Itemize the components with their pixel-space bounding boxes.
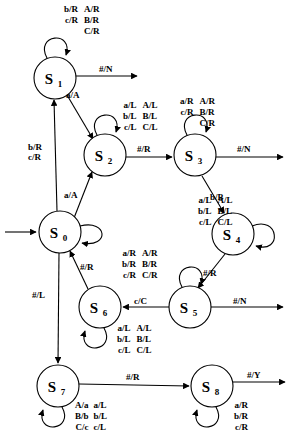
state-label-s4: S [223,227,231,243]
self-loop-label-s3: a/R c/R A/R B/R C/R [180,96,215,129]
edge-label-s1-accept: #/N [99,64,113,74]
self-loop-s5 [179,267,202,287]
state-label-s7: S [48,379,56,395]
state-node-s8[interactable]: S 8 [191,365,233,407]
edge-label-s0-s1: b/R c/R [28,142,42,162]
self-loop-label-s4-col1: a/L b/L c/L [198,195,212,228]
self-loop-s0 [80,225,102,244]
self-loop-label-s2-col1: a/L b/L c/L [123,100,137,133]
self-loop-label-s2: a/L b/L c/L A/L B/L C/L [123,100,158,133]
state-label-s8: S [202,379,210,395]
transition-s1-s2 [67,95,93,139]
state-node-s6[interactable]: S 6 [79,286,121,328]
edge-label-s6-s0: #/R [80,262,94,272]
edge-label-s5-s6: c/C [134,296,147,306]
self-loop-label-s7: A/a B/b C/c a/L b/L c/L [75,400,107,433]
self-loop-label-s4: a/L b/L c/L A/L B/L C/L [198,195,233,228]
edge-label-s5-accept: #/N [233,296,247,306]
self-loop-label-s6-col2: A/L B/L C/L [137,323,152,356]
state-node-s7[interactable]: S 7 [37,365,79,407]
edge-label-s8-accept: #/Y [247,370,261,380]
transition-s0-s7 [58,253,59,363]
state-subscript-s1: 1 [58,79,63,89]
self-loop-label-s8: a/R b/R c/R [234,400,254,433]
edge-label-s0-s2: a/A [64,190,78,200]
state-machine-diagram: S 0 S 1 S 2 S 3 S 4 S 5 S [0,0,292,439]
state-subscript-s5: 5 [193,308,198,318]
state-node-s5[interactable]: S 5 [169,286,211,328]
state-subscript-s6: 6 [103,308,108,318]
self-loop-label-s6: a/L b/L c/L A/L B/L C/L [117,323,152,356]
self-loop-s2 [94,115,117,135]
self-loop-label-s5-col1: a/R b/R c/R [122,248,136,281]
self-loop-s6 [84,328,107,348]
state-label-s5: S [180,300,188,316]
edge-label-s7-s8: #/R [126,372,140,382]
state-node-s3[interactable]: S 3 [174,134,216,176]
edge-label-s3-accept: #/N [237,144,251,154]
state-label-s6: S [90,300,98,316]
self-loop-s1 [44,38,67,58]
self-loop-label-s1-col2: A/R B/R C/R [84,4,100,37]
self-loop-label-s1-col1: b/R c/R [64,4,78,37]
self-loop-label-s8-col1: a/R b/R c/R [234,400,248,433]
self-loop-label-s6-col1: a/L b/L c/L [117,323,131,356]
state-label-s2: S [95,148,103,164]
self-loop-label-s4-col2: A/L B/L C/L [218,195,233,228]
state-subscript-s3: 3 [198,156,203,166]
self-loop-label-s7-col1: A/a B/b C/c [75,400,89,433]
state-subscript-s2: 2 [108,156,113,166]
self-loop-s8 [196,407,219,427]
edge-label-s4-s5: #/R [203,268,217,278]
state-label-s3: S [185,148,193,164]
transition-s0-s1 [54,100,57,211]
state-subscript-s8: 8 [215,387,220,397]
transition-s7-s8 [79,384,189,386]
self-loop-label-s5: a/R b/R c/R A/R B/R C/R [122,248,158,281]
self-loop-label-s3-col2: A/R B/R C/R [200,96,216,129]
state-label-s0: S [50,225,58,241]
state-subscript-s4: 4 [236,235,241,245]
self-loop-s4 [252,224,274,247]
state-subscript-s7: 7 [61,387,66,397]
state-node-s2[interactable]: S 2 [84,134,126,176]
self-loop-label-s2-col2: A/L B/L C/L [143,100,158,133]
self-loop-label-s3-col1: a/R c/R [180,96,194,129]
self-loop-label-s1: b/R c/R A/R B/R C/R [64,4,100,37]
self-loop-label-s7-col2: a/L b/L c/L [94,400,108,433]
edge-label-s1-s2: a/A [66,90,80,100]
self-loop-s7 [42,407,65,427]
edge-label-s0-s7: #/L [32,290,45,300]
state-node-s0[interactable]: S 0 [39,211,81,253]
state-subscript-s0: 0 [63,233,68,243]
state-label-s1: S [45,71,53,87]
edge-label-s2-s3: #/R [137,144,151,154]
self-loop-label-s5-col2: A/R B/R C/R [142,248,158,281]
